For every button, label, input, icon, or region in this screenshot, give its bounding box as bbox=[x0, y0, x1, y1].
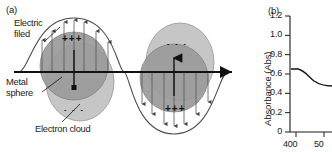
x-tick-label-400: 400 bbox=[283, 139, 297, 149]
panel-a-lspr-diagram: Electric filed Metal sphere Electron clo… bbox=[0, 0, 250, 152]
figure-container: Electric filed Metal sphere Electron clo… bbox=[0, 0, 332, 152]
panel-label-b: (b) bbox=[268, 5, 279, 16]
x-tick-marks bbox=[296, 132, 324, 137]
y-tick-label-0: 0 bbox=[262, 126, 282, 136]
y-tick-label-0.8: 0.8 bbox=[262, 49, 282, 59]
caption-electron-cloud: Electron cloud bbox=[35, 124, 90, 135]
caption-metal-sphere: Metal sphere bbox=[6, 77, 33, 98]
x-tick-label-500: 50 bbox=[314, 139, 324, 149]
absorbance-curve bbox=[291, 69, 332, 86]
y-tick-label-0.2: 0.2 bbox=[262, 107, 282, 117]
y-tick-label-1.0: 1.0 bbox=[262, 29, 282, 39]
sphere-2-negative-charges: - - - bbox=[167, 40, 188, 47]
sphere-1-negative-charges: - - - bbox=[64, 106, 85, 113]
caption-electric-field: Electric filed bbox=[14, 18, 42, 39]
panel-b-absorbance-chart: Absorbance (Abs) 1.2 1.0 0.8 0.6 0.4 0.2… bbox=[250, 0, 332, 152]
sphere-2-positive-charges: +++ bbox=[165, 103, 186, 114]
y-tick-label-0.6: 0.6 bbox=[262, 68, 282, 78]
y-tick-marks bbox=[285, 16, 290, 132]
panel-label-a: (a) bbox=[6, 4, 17, 15]
dipole-arrow-1-head bbox=[72, 85, 77, 90]
sphere-1-positive-charges: +++ bbox=[62, 33, 83, 44]
y-tick-label-0.4: 0.4 bbox=[262, 87, 282, 97]
